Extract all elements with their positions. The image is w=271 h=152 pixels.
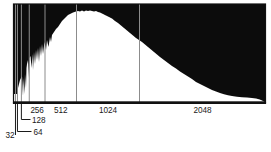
histogram-chart: 326412825651210242048 — [0, 0, 271, 152]
x-axis-label-2048: 2048 — [194, 106, 212, 115]
screenshot-root: 326412825651210242048 — [0, 0, 271, 152]
callout-label-32: 32 — [6, 131, 15, 140]
leader-line-128 — [21, 103, 30, 120]
x-axis-label-256: 256 — [30, 106, 44, 115]
callout-label-128: 128 — [32, 116, 46, 125]
leader-line-64 — [17, 103, 31, 132]
x-axis-label-1024: 1024 — [99, 106, 117, 115]
x-axis-label-512: 512 — [54, 106, 68, 115]
callout-label-64: 64 — [34, 128, 43, 137]
raw-histogram-figure: 326412825651210242048 — [0, 0, 271, 152]
